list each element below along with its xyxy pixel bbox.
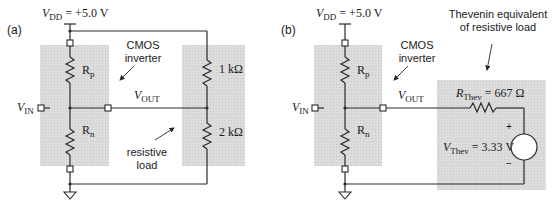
cmos-label-b-1: CMOS bbox=[401, 39, 434, 51]
panel-a: (a) VDD = +5.0 V Rp VIN VOUT Rn bbox=[7, 6, 245, 199]
plus-sign: + bbox=[506, 121, 512, 132]
pin-top-b bbox=[342, 40, 348, 46]
thevenin-title-1: Thevenin equivalent bbox=[449, 8, 547, 20]
load-label-1: resistive bbox=[127, 146, 167, 158]
arrow-icon-cmos-b bbox=[394, 66, 408, 80]
panel-label-b: (b) bbox=[281, 23, 296, 37]
pin-bottom-a bbox=[67, 166, 73, 172]
vout-label-a: VOUT bbox=[134, 88, 160, 104]
cmos-label-b-2: inverter bbox=[399, 52, 436, 64]
pin-top-a bbox=[67, 40, 73, 46]
vout-label-b: VOUT bbox=[398, 88, 424, 104]
arrow-icon-load bbox=[155, 128, 174, 140]
vin-label-b: VIN bbox=[292, 100, 309, 116]
cmos-label-a-2: inverter bbox=[125, 52, 162, 64]
ground-icon-a bbox=[64, 192, 76, 199]
panel-b: (b) VDD = +5.0 V Rp VIN VOUT Rn RThev = … bbox=[281, 6, 547, 199]
ground-icon-b bbox=[339, 192, 351, 199]
cmos-label-a-1: CMOS bbox=[127, 39, 160, 51]
vdd-label-a: VDD = +5.0 V bbox=[42, 6, 109, 22]
vout-pin-a bbox=[105, 105, 111, 111]
arrow-icon-thevenin bbox=[487, 44, 492, 70]
vin-pin-b bbox=[312, 105, 318, 111]
voltage-source-icon bbox=[511, 134, 537, 160]
panel-label-a: (a) bbox=[7, 23, 22, 37]
arrow-icon-cmos-a bbox=[120, 66, 134, 80]
load-label-2: load bbox=[137, 159, 158, 171]
thevenin-title-2: of resistive load bbox=[460, 21, 536, 33]
vdd-label-b: VDD = +5.0 V bbox=[316, 6, 383, 22]
vin-pin-a bbox=[38, 105, 44, 111]
circuit-figure: (a) VDD = +5.0 V Rp VIN VOUT Rn bbox=[0, 0, 552, 210]
minus-sign: − bbox=[506, 158, 512, 169]
vdd-node-a bbox=[68, 29, 71, 32]
pin-bottom-b bbox=[342, 166, 348, 172]
vout-pin-b bbox=[380, 105, 386, 111]
r-2k-label: 2 kΩ bbox=[219, 125, 243, 139]
vin-label-a: VIN bbox=[17, 100, 34, 116]
r-1k-label: 1 kΩ bbox=[219, 62, 243, 76]
